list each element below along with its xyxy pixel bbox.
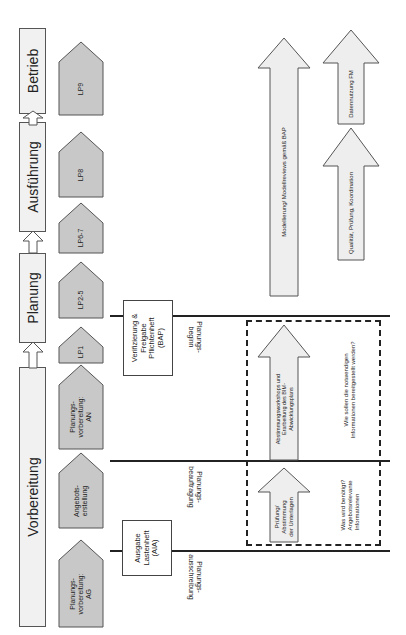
arrow-abstimmungsworkshops: Abstimmungsworkshops und Erarbeitung des… bbox=[270, 357, 298, 460]
arrow-pruefung: Prüfung/ Abstimmung der Unterlagen bbox=[270, 492, 298, 542]
note-was-wird-benoetigt: Was wird benötigt? Angebotsrelevante Inf… bbox=[330, 470, 370, 540]
arrow-modellierung: Modellierung/ Modellreviews gemäß BAP bbox=[270, 68, 298, 296]
note-wie-sollen: Wie sollen die notwendigen Informationen… bbox=[330, 330, 370, 450]
arrow-datennutzung: Datennutzung FM bbox=[338, 63, 364, 124]
arrow-qualitaet: Qualität, Prüfung, Koordination bbox=[338, 166, 364, 260]
